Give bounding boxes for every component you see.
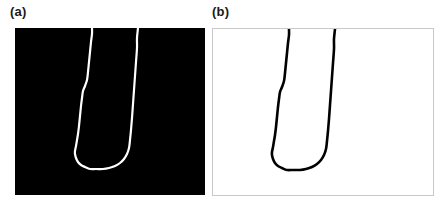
panel-a-background xyxy=(15,28,205,195)
panel-label-a: (a) xyxy=(10,5,27,18)
figure-root: (a) (b) xyxy=(0,0,444,207)
panel-a-binary-mask xyxy=(15,28,205,195)
panel-label-b: (b) xyxy=(212,5,229,18)
contour-plot-a xyxy=(15,28,205,195)
panel-b-background xyxy=(213,29,433,195)
panel-b-extracted-contour xyxy=(212,28,434,196)
contour-plot-b xyxy=(213,29,433,195)
